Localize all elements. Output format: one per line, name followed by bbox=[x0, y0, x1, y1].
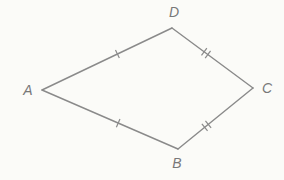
vertex-label-A: A bbox=[22, 82, 32, 98]
vertex-label-B: B bbox=[172, 155, 181, 171]
vertex-label-C: C bbox=[262, 80, 273, 96]
diagram-canvas: ADCB bbox=[0, 0, 284, 180]
kite-diagram: ADCB bbox=[0, 0, 284, 180]
vertex-label-D: D bbox=[169, 4, 179, 20]
